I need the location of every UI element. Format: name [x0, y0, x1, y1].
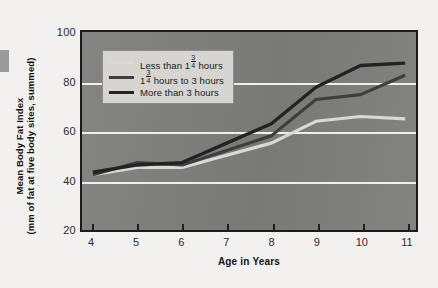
- legend-item: More than 3 hours: [109, 86, 224, 98]
- y-axis-tick-label: 60: [50, 125, 76, 137]
- legend-item: 134 hours to 3 hours: [109, 71, 224, 83]
- x-axis-tick-labels: 4567891011: [80, 236, 418, 252]
- x-axis-title: Age in Years: [80, 256, 418, 267]
- x-axis-tick-label: 6: [166, 236, 196, 248]
- left-edge-tab: [0, 50, 9, 72]
- legend-label: More than 3 hours: [140, 87, 219, 98]
- y-axis-title-line2: (mm of fat at five body sites, summed): [26, 58, 37, 235]
- x-axis-tick-label: 9: [302, 236, 332, 248]
- legend-label: 134 hours to 3 hours: [140, 69, 224, 86]
- x-axis-tick-label: 8: [257, 236, 287, 248]
- chart-figure: Mean Body Fat Index (mm of fat at five b…: [0, 0, 438, 288]
- legend-swatch: [109, 61, 134, 64]
- legend-item: Less than 134 hours: [109, 56, 224, 68]
- y-axis-title-line1: Mean Body Fat Index: [15, 98, 26, 195]
- chart-legend: Less than 134 hours134 hours to 3 hoursM…: [102, 50, 234, 104]
- plot-area: Less than 134 hours134 hours to 3 hoursM…: [80, 30, 418, 232]
- y-axis-tick-label: 100: [50, 26, 76, 38]
- fraction-glyph: 34: [146, 69, 151, 84]
- y-axis-tick-label: 20: [50, 224, 76, 236]
- legend-swatch: [109, 76, 134, 79]
- y-axis-tick-label: 80: [50, 76, 76, 88]
- y-axis-tick-label: 40: [50, 175, 76, 187]
- x-axis-tick-label: 5: [121, 236, 151, 248]
- x-axis-tick-label: 4: [76, 236, 106, 248]
- fraction-glyph: 34: [191, 54, 196, 69]
- y-axis-tick-labels: 20406080100: [46, 0, 76, 288]
- x-axis-tick-label: 11: [392, 236, 422, 248]
- x-axis-tick-label: 7: [211, 236, 241, 248]
- legend-swatch: [109, 91, 134, 94]
- x-axis-tick-label: 10: [347, 236, 377, 248]
- y-axis-title: Mean Body Fat Index (mm of fat at five b…: [11, 41, 41, 251]
